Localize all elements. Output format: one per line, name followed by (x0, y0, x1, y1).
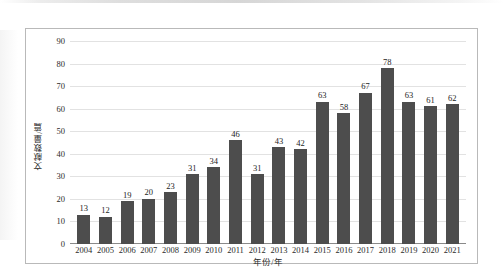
bar[interactable] (164, 192, 177, 244)
bar-slot: 61 (420, 41, 442, 244)
x-axis-tick-label: 2019 (398, 246, 420, 255)
bar-slot: 58 (333, 41, 355, 244)
chart-frame: 文献数量/篇 0102030405060708090 1312192023313… (25, 28, 478, 264)
plot-area: 0102030405060708090 13121920233134463143… (70, 41, 466, 244)
x-axis-tick-label: 2009 (181, 246, 203, 255)
bar-value-label: 67 (361, 82, 370, 91)
bar-value-label: 42 (296, 139, 305, 148)
y-axis-title: 文献数量/篇 (35, 122, 44, 169)
y-axis-tick-label: 30 (57, 172, 66, 181)
bar-slot: 34 (203, 41, 225, 244)
bar-slot: 31 (181, 41, 203, 244)
bar[interactable] (424, 106, 437, 244)
bar-value-label: 63 (405, 91, 414, 100)
x-axis-tick-label: 2012 (246, 246, 268, 255)
x-axis-tick-label: 2018 (376, 246, 398, 255)
x-axis-tick-label: 2011 (225, 246, 247, 255)
x-axis-tick-label: 2010 (203, 246, 225, 255)
bar-slot: 42 (290, 41, 312, 244)
x-axis-tick-label: 2007 (138, 246, 160, 255)
x-axis-title: 年份/年 (70, 258, 466, 267)
bar-slot: 63 (311, 41, 333, 244)
x-axis-tick-label: 2014 (290, 246, 312, 255)
bar[interactable] (207, 167, 220, 244)
x-axis-tick-labels: 2004200520062007200820092010201120122013… (70, 246, 466, 255)
bar[interactable] (77, 215, 90, 244)
x-axis-tick-label: 2006 (116, 246, 138, 255)
bar-value-label: 12 (101, 206, 110, 215)
y-axis-tick-label: 60 (57, 104, 66, 113)
bar-value-label: 43 (275, 137, 284, 146)
y-axis-tick-label: 90 (57, 37, 66, 46)
bar[interactable] (142, 199, 155, 244)
scan-artifact-left-smudge (0, 30, 18, 240)
x-axis-tick-label: 2008 (160, 246, 182, 255)
bar[interactable] (316, 102, 329, 244)
bar-slot: 78 (376, 41, 398, 244)
bar-value-label: 19 (123, 191, 132, 200)
bar-series: 131219202331344631434263586778636162 (70, 41, 466, 244)
bar-value-label: 62 (448, 94, 457, 103)
bar-slot: 20 (138, 41, 160, 244)
bar[interactable] (294, 149, 307, 244)
bar-value-label: 23 (166, 182, 175, 191)
bar-slot: 31 (246, 41, 268, 244)
x-axis-tick-label: 2016 (333, 246, 355, 255)
x-axis-tick-label: 2017 (355, 246, 377, 255)
bar[interactable] (99, 217, 112, 244)
bar-value-label: 78 (383, 58, 392, 67)
bar-value-label: 20 (145, 188, 154, 197)
bar-value-label: 46 (231, 130, 240, 139)
bar-value-label: 63 (318, 91, 327, 100)
bar-value-label: 31 (253, 164, 262, 173)
bar-slot: 67 (355, 41, 377, 244)
bar-slot: 46 (225, 41, 247, 244)
bar-slot: 63 (398, 41, 420, 244)
bar[interactable] (446, 104, 459, 244)
bar-value-label: 13 (80, 204, 89, 213)
x-axis-tick-label: 2013 (268, 246, 290, 255)
bar-value-label: 58 (340, 103, 349, 112)
y-axis-tick-label: 20 (57, 195, 66, 204)
bar[interactable] (402, 102, 415, 244)
x-axis-tick-label: 2005 (95, 246, 117, 255)
bar[interactable] (337, 113, 350, 244)
bar[interactable] (229, 140, 242, 244)
y-axis-tick-label: 0 (61, 240, 65, 249)
scan-artifact-top-band (0, 0, 503, 3)
x-axis-tick-label: 2021 (441, 246, 463, 255)
bar-slot: 19 (116, 41, 138, 244)
y-axis-tick-label: 50 (57, 127, 66, 136)
x-axis-tick-label: 2020 (420, 246, 442, 255)
bar-value-label: 61 (426, 96, 435, 105)
bar-slot: 62 (441, 41, 463, 244)
bar[interactable] (381, 68, 394, 244)
bar[interactable] (121, 201, 134, 244)
bar-value-label: 34 (210, 157, 219, 166)
bar[interactable] (272, 147, 285, 244)
bar-slot: 43 (268, 41, 290, 244)
bar-slot: 12 (95, 41, 117, 244)
bar[interactable] (359, 93, 372, 244)
y-axis-tick-label: 70 (57, 82, 66, 91)
bar-value-label: 31 (188, 164, 197, 173)
bar[interactable] (186, 174, 199, 244)
bar[interactable] (251, 174, 264, 244)
y-axis-tick-label: 80 (57, 59, 66, 68)
bar-slot: 13 (73, 41, 95, 244)
y-axis-tick-label: 10 (57, 217, 66, 226)
bar-slot: 23 (160, 41, 182, 244)
x-axis-tick-label: 2004 (73, 246, 95, 255)
x-axis-tick-label: 2015 (311, 246, 333, 255)
y-axis-tick-label: 40 (57, 150, 66, 159)
